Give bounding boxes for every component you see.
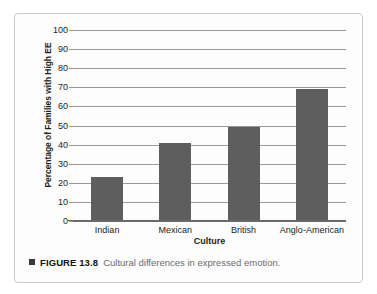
y-axis-tick-label: 80 xyxy=(58,63,68,73)
bar xyxy=(228,127,260,221)
bar xyxy=(91,177,123,221)
y-axis-tick-label: 40 xyxy=(58,140,68,150)
bar xyxy=(159,143,191,221)
y-axis-tick-mark xyxy=(69,145,73,146)
y-axis-tick-label: 100 xyxy=(53,25,68,35)
bar-chart: Percentage of Families with High EE 0102… xyxy=(15,14,364,244)
y-axis-tick-mark xyxy=(69,202,73,203)
x-axis-category-label: Anglo-American xyxy=(280,225,344,235)
gridline xyxy=(73,87,346,88)
bar xyxy=(296,89,328,221)
figure-caption-text: Cultural differences in expressed emotio… xyxy=(103,257,280,268)
y-axis-tick-mark xyxy=(69,183,73,184)
plot-area: 0102030405060708090100 IndianMexicanBrit… xyxy=(73,30,346,221)
y-axis-title: Percentage of Families with High EE xyxy=(43,20,53,210)
figure-container: Percentage of Families with High EE 0102… xyxy=(14,13,363,283)
y-axis-tick-mark xyxy=(69,87,73,88)
gridline xyxy=(73,30,346,31)
y-axis-tick-mark xyxy=(69,164,73,165)
y-axis-tick-label: 90 xyxy=(58,44,68,54)
x-axis-title: Culture xyxy=(73,236,346,246)
gridline xyxy=(73,49,346,50)
y-axis-tick-label: 10 xyxy=(58,197,68,207)
y-axis-tick-label: 60 xyxy=(58,101,68,111)
y-axis-tick-mark xyxy=(69,221,73,222)
y-axis-tick-label: 30 xyxy=(58,159,68,169)
x-axis-category-label: British xyxy=(231,225,256,235)
y-axis-tick-mark xyxy=(69,68,73,69)
y-axis-tick-label: 0 xyxy=(63,216,68,226)
gridline xyxy=(73,221,346,222)
y-axis-tick-mark xyxy=(69,106,73,107)
y-axis-tick-label: 70 xyxy=(58,82,68,92)
x-axis-line xyxy=(68,220,346,221)
figure-caption-label: FIGURE 13.8 xyxy=(40,257,98,268)
y-axis-tick-label: 20 xyxy=(58,178,68,188)
square-bullet-icon xyxy=(29,259,35,265)
figure-caption: FIGURE 13.8 Cultural differences in expr… xyxy=(29,257,350,268)
y-axis-tick-mark xyxy=(69,49,73,50)
y-axis-tick-mark xyxy=(69,126,73,127)
y-axis-tick-label: 50 xyxy=(58,121,68,131)
y-axis-tick-mark xyxy=(69,30,73,31)
x-axis-category-label: Indian xyxy=(95,225,120,235)
gridline xyxy=(73,68,346,69)
x-axis-category-label: Mexican xyxy=(159,225,193,235)
